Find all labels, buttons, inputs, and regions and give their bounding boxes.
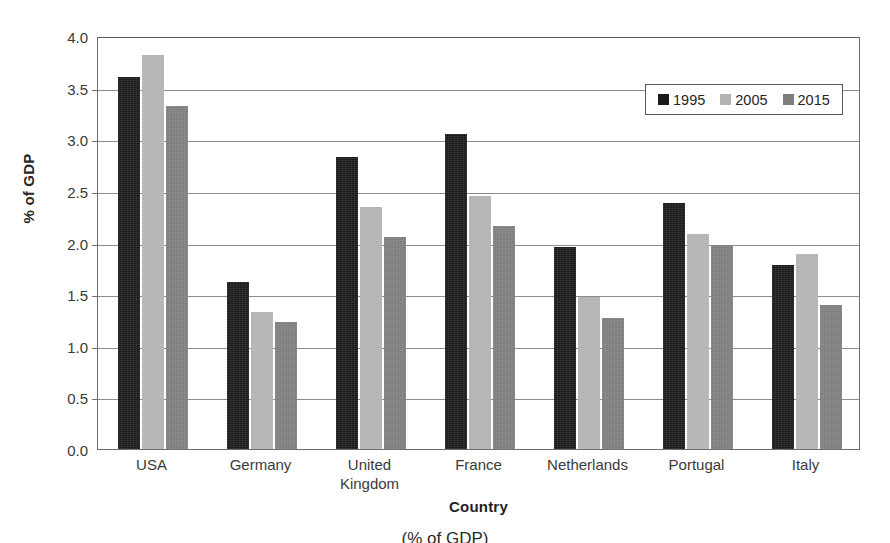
legend-item-1995: 1995 (658, 92, 705, 108)
y-tick-label: 3.0 (40, 132, 88, 149)
bar-portugal-2015 (711, 245, 733, 449)
legend-swatch-icon (720, 94, 731, 105)
legend-label: 2005 (735, 92, 767, 108)
x-tick-label-line: Italy (792, 455, 820, 474)
legend-label: 2015 (798, 92, 830, 108)
bar-netherlands-1995 (554, 247, 576, 449)
bar-netherlands-2005 (578, 297, 600, 449)
x-tick-label-line: United (340, 455, 399, 474)
x-tick-label-line: Germany (230, 455, 292, 474)
legend-item-2015: 2015 (783, 92, 830, 108)
x-tick-label: USA (136, 455, 167, 474)
x-tick-label-line: France (455, 455, 502, 474)
x-axis-tick-labels: USAGermanyUnitedKingdomFranceNetherlands… (97, 455, 860, 501)
y-tick-label: 2.0 (40, 235, 88, 252)
bar-italy-1995 (772, 265, 794, 449)
bar-france-2015 (493, 226, 515, 449)
x-tick-label: France (455, 455, 502, 474)
bar-netherlands-2015 (602, 318, 624, 449)
bar-usa-1995 (118, 77, 140, 449)
bar-germany-1995 (227, 282, 249, 449)
bar-group (227, 38, 297, 449)
bar-united-kingdom-2015 (384, 237, 406, 449)
figure-caption: (% of GDP) (0, 529, 890, 543)
legend-swatch-icon (658, 94, 669, 105)
x-tick-label: Germany (230, 455, 292, 474)
bar-portugal-2005 (687, 234, 709, 449)
legend-item-2005: 2005 (720, 92, 767, 108)
bar-germany-2015 (275, 322, 297, 449)
x-tick-label: Portugal (669, 455, 725, 474)
y-axis-title: % of GDP (20, 129, 37, 249)
legend-swatch-icon (783, 94, 794, 105)
bar-united-kingdom-1995 (336, 157, 358, 449)
bar-france-2005 (469, 196, 491, 449)
bar-group (554, 38, 624, 449)
x-tick-label-line: USA (136, 455, 167, 474)
bar-usa-2005 (142, 55, 164, 449)
bar-chart: % of GDP 0.00.51.01.52.02.53.03.54.0 199… (0, 0, 890, 543)
legend-label: 1995 (673, 92, 705, 108)
bar-germany-2005 (251, 312, 273, 449)
bar-usa-2015 (166, 106, 188, 449)
x-tick-label-line: Portugal (669, 455, 725, 474)
bar-group (445, 38, 515, 449)
bar-united-kingdom-2005 (360, 207, 382, 449)
y-axis-tick-labels: 0.00.51.01.52.02.53.03.54.0 (40, 37, 88, 450)
y-tick-label: 0.0 (40, 442, 88, 459)
bar-group (336, 38, 406, 449)
x-tick-label: UnitedKingdom (340, 455, 399, 493)
chart-legend: 199520052015 (645, 84, 843, 115)
x-tick-label-line: Kingdom (340, 474, 399, 493)
y-tick-label: 1.5 (40, 287, 88, 304)
bar-portugal-1995 (663, 203, 685, 449)
bar-italy-2015 (820, 305, 842, 449)
y-tick-label: 3.5 (40, 80, 88, 97)
bar-group (118, 38, 188, 449)
x-tick-label-line: Netherlands (547, 455, 628, 474)
x-tick-label: Netherlands (547, 455, 628, 474)
x-axis-title: Country (97, 498, 860, 515)
bar-italy-2005 (796, 254, 818, 449)
y-tick-label: 2.5 (40, 183, 88, 200)
bar-france-1995 (445, 134, 467, 449)
x-tick-label: Italy (792, 455, 820, 474)
y-tick-label: 0.5 (40, 390, 88, 407)
y-tick-label: 4.0 (40, 29, 88, 46)
y-tick-label: 1.0 (40, 338, 88, 355)
